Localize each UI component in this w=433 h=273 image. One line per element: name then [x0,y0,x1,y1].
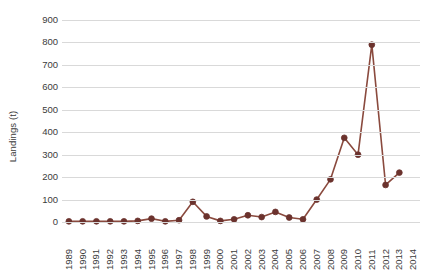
gridline [62,132,420,133]
x-tick-label: 2012 [381,224,391,270]
x-tick-label: 2002 [243,224,253,270]
x-axis-tick-labels: 1989199019911992199319941995199619971998… [62,224,420,273]
x-tick-label: 2009 [339,224,349,270]
y-tick-label: 500 [26,105,58,115]
x-tick-label: 2014 [408,224,418,270]
data-point-marker [383,182,389,188]
gridline [62,65,420,66]
x-tick-label: 2001 [229,224,239,270]
x-tick-label: 2004 [270,224,280,270]
data-point-marker [341,135,347,141]
landings-line-chart: Landings (t) 010020030040050060070080090… [0,0,433,273]
data-point-marker [204,213,210,219]
y-tick-label: 700 [26,60,58,70]
landings-series [62,20,420,222]
data-point-marker [273,209,279,215]
y-tick-label: 0 [26,217,58,227]
x-tick-label: 2006 [298,224,308,270]
y-axis-title: Landings (t) [0,0,24,273]
gridline [62,177,420,178]
x-tick-label: 2010 [353,224,363,270]
y-tick-label: 100 [26,195,58,205]
x-tick-label: 2003 [257,224,267,270]
data-point-marker [286,215,292,221]
x-tick-label: 1989 [64,224,74,270]
y-tick-label: 800 [26,38,58,48]
x-tick-label: 2011 [367,224,377,270]
x-tick-label: 2000 [215,224,225,270]
gridline [62,222,420,223]
x-tick-label: 1996 [160,224,170,270]
x-tick-label: 1992 [105,224,115,270]
x-tick-label: 1995 [147,224,157,270]
gridline [62,42,420,43]
data-point-marker [259,214,265,220]
y-tick-label: 400 [26,127,58,137]
data-point-marker [396,170,402,176]
x-tick-label: 1998 [188,224,198,270]
x-tick-label: 2008 [326,224,336,270]
gridline [62,20,420,21]
y-tick-label: 900 [26,15,58,25]
x-tick-label: 1994 [133,224,143,270]
x-tick-label: 1997 [174,224,184,270]
y-tick-label: 200 [26,172,58,182]
x-tick-label: 2013 [394,224,404,270]
x-tick-label: 1990 [78,224,88,270]
y-tick-label: 300 [26,150,58,160]
gridline [62,200,420,201]
x-tick-label: 1993 [119,224,129,270]
gridline [62,155,420,156]
x-tick-label: 1991 [91,224,101,270]
y-tick-label: 600 [26,83,58,93]
gridline [62,110,420,111]
gridline [62,87,420,88]
plot-area [62,20,420,222]
x-tick-label: 2005 [284,224,294,270]
x-tick-label: 1999 [202,224,212,270]
data-point-marker [245,212,251,218]
y-axis-tick-labels: 0100200300400500600700800900 [26,0,58,273]
data-point-marker [149,216,155,222]
x-tick-label: 2007 [312,224,322,270]
